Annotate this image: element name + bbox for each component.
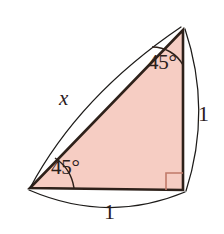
geometry-figure: 45° 45° 1 1 x — [0, 0, 224, 234]
side-label-hypotenuse-x: x — [59, 88, 68, 109]
side-label-right: 1 — [198, 103, 209, 125]
side-label-bottom: 1 — [104, 201, 115, 223]
angle-label-bottom-left: 45° — [51, 157, 80, 178]
right-side-measure-arc — [185, 29, 199, 191]
angle-label-top: 45° — [148, 52, 177, 73]
